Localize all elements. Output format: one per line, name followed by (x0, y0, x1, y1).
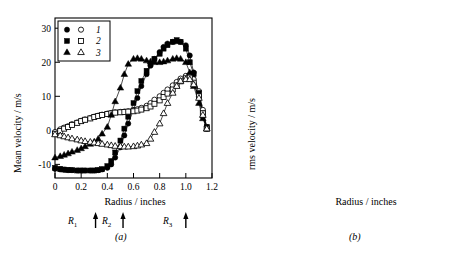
legend-marker-open-1 (78, 27, 83, 32)
x-tick-label: 0.4 (101, 182, 113, 192)
data-point-circle-filled (126, 121, 131, 126)
data-point-triangle-filled (104, 124, 111, 130)
panel-a-plot: 00.20.40.60.81.01.2-100102030123 (0, 0, 236, 256)
panel-a-caption: (a) (115, 231, 127, 242)
legend-marker-filled-1 (64, 27, 69, 32)
panel-a-y-axis-label: Mean velocity / m/s (12, 93, 23, 173)
y-tick-label: 10 (42, 92, 52, 102)
data-point-square-filled (100, 167, 105, 172)
data-point-triangle-open (151, 129, 158, 135)
y-tick-label: 20 (42, 58, 52, 68)
legend-marker-open-2 (79, 38, 84, 43)
data-point-triangle-open (160, 110, 167, 116)
figure-container: 00.20.40.60.81.01.2-100102030123 Mean ve… (0, 0, 472, 256)
legend-label-1: 1 (96, 25, 101, 35)
r1-subscript: 1 (74, 221, 78, 229)
r3-subscript: 3 (169, 221, 173, 229)
data-point-square-open (113, 110, 118, 115)
x-tick-label: 1.2 (206, 182, 218, 192)
data-point-circle-filled (122, 133, 127, 138)
panel-b: 00.20.40.60.81.01.251015123 rms velocity… (236, 0, 472, 256)
radial-marker-r1: R1 (68, 216, 77, 229)
data-point-square-filled (183, 46, 188, 51)
data-point-square-filled (70, 168, 75, 173)
panel-b-plot: 00.20.40.60.81.01.251015123 (236, 0, 472, 256)
data-point-square-filled (157, 51, 162, 56)
data-point-square-filled (165, 43, 170, 48)
y-tick-label: 0 (46, 126, 51, 136)
radial-arrow-R2 (120, 212, 125, 228)
panel-b-caption: (b) (349, 231, 361, 242)
data-point-square-open (70, 122, 75, 127)
panel-a-x-axis-label: Radius / inches (60, 196, 210, 207)
data-point-square-filled (122, 126, 127, 131)
legend-label-2: 2 (96, 36, 101, 46)
data-point-square-open (83, 117, 88, 122)
data-point-square-open (100, 113, 105, 118)
data-point-triangle-filled (117, 84, 124, 90)
data-point-square-open (152, 101, 157, 106)
radial-marker-r2: R2 (102, 216, 111, 229)
r2-subscript: 2 (108, 221, 112, 229)
arrow-head (93, 212, 98, 219)
series-markers-triangle-filled (52, 55, 210, 160)
x-tick-label: 1.0 (180, 182, 192, 192)
data-point-square-filled (113, 150, 118, 155)
data-point-square-open (126, 109, 131, 114)
data-point-square-filled (109, 158, 114, 163)
data-point-triangle-open (147, 135, 154, 141)
data-point-square-filled (105, 164, 110, 169)
radial-marker-r3: R3 (163, 216, 172, 229)
arrow-head (120, 212, 125, 219)
y-tick-label: 30 (42, 24, 52, 34)
panel-b-x-axis-label: Radius / inches (291, 196, 441, 207)
legend-marker-filled-2 (65, 38, 70, 43)
data-point-triangle-filled (112, 98, 119, 104)
data-point-circle-filled (139, 83, 144, 88)
data-point-circle-filled (135, 95, 140, 100)
data-point-square-open (139, 107, 144, 112)
data-point-square-filled (131, 101, 136, 106)
data-point-square-filled (126, 114, 131, 119)
radial-arrow-R3 (183, 212, 188, 228)
x-tick-label: 0.2 (75, 182, 87, 192)
data-point-square-filled (178, 39, 183, 44)
x-tick-label: 0.6 (128, 182, 140, 192)
panel-b-y-axis-label: rms velocity / m/s (246, 98, 257, 170)
data-point-triangle-filled (121, 71, 128, 77)
data-point-triangle-open (156, 120, 163, 126)
x-tick-label: 0.8 (154, 182, 166, 192)
data-point-circle-filled (187, 53, 192, 58)
data-point-square-filled (83, 168, 88, 173)
legend-label-3: 3 (95, 48, 101, 58)
data-point-triangle-open (164, 100, 171, 106)
data-point-square-filled (135, 89, 140, 94)
y-tick-label: -10 (38, 160, 51, 170)
arrow-head (183, 212, 188, 219)
x-tick-label: 0 (53, 182, 58, 192)
data-point-square-filled (144, 68, 149, 73)
radial-arrow-R1 (93, 212, 98, 228)
panel-a: 00.20.40.60.81.01.2-100102030123 Mean ve… (0, 0, 236, 256)
data-point-square-filled (53, 165, 58, 170)
data-point-square-filled (139, 78, 144, 83)
